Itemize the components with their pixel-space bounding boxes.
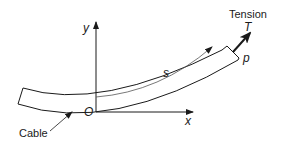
x-axis-label: x [185,115,191,127]
cable-left-end [18,88,23,104]
cable-label: Cable [19,128,48,139]
tension-arrow [233,33,250,52]
cable-upper-edge [23,50,222,95]
tension-title-label: Tension [229,9,267,20]
arc-length-label: s [163,67,169,79]
cable-pointer-arrow [50,112,72,131]
point-label: p [243,52,250,64]
y-axis-label: y [83,22,89,34]
arc-length-path [96,47,212,97]
cable-tension-diagram: y x O s Tension T p Cable [0,0,283,148]
diagram-graphic [0,0,283,148]
tension-symbol-label: T [244,21,251,33]
origin-label: O [84,106,93,118]
